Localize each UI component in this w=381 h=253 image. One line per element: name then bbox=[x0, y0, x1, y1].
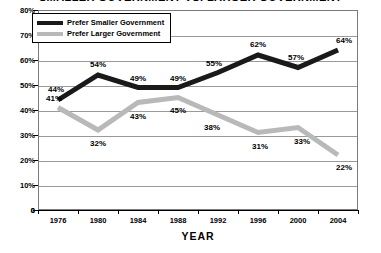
data-point-label: 49% bbox=[130, 73, 146, 82]
chart-title: SMALLER GOVERNMENT VS. LARGER GOVERNMENT bbox=[0, 0, 381, 3]
data-point-label: 22% bbox=[336, 163, 352, 172]
x-axis-tick-label: 1988 bbox=[156, 216, 200, 225]
y-axis-tick-label: 70% bbox=[1, 31, 35, 40]
y-axis-tick-label: 10% bbox=[1, 181, 35, 190]
x-axis-tick-label: 1980 bbox=[76, 216, 120, 225]
y-axis-zero-label: 0 bbox=[1, 206, 35, 215]
legend-item-smaller-government: Prefer Smaller Government bbox=[37, 17, 164, 28]
gridline bbox=[39, 61, 357, 62]
data-point-label: 57% bbox=[288, 52, 304, 61]
legend-swatch-larger-government bbox=[37, 32, 63, 36]
y-axis-tick-label: 50% bbox=[1, 81, 35, 90]
y-axis-tick-label: 20% bbox=[1, 156, 35, 165]
gridline bbox=[39, 186, 357, 187]
x-axis-tick-label: 2000 bbox=[276, 216, 320, 225]
y-axis-tick-label: 80% bbox=[1, 6, 35, 15]
gridline bbox=[39, 86, 357, 87]
gridline bbox=[39, 111, 357, 112]
gridline bbox=[39, 161, 357, 162]
data-point-label: 64% bbox=[336, 36, 352, 45]
data-point-label: 41% bbox=[46, 93, 62, 102]
legend-swatch-smaller-government bbox=[37, 21, 63, 25]
y-axis-tick bbox=[33, 85, 38, 86]
data-point-label: 55% bbox=[206, 58, 222, 67]
x-axis-line bbox=[38, 210, 358, 211]
y-axis-tick bbox=[33, 135, 38, 136]
x-axis-tick-label: 1996 bbox=[236, 216, 280, 225]
data-point-label: 33% bbox=[294, 136, 310, 145]
y-axis-tick bbox=[33, 160, 38, 161]
y-axis-tick-label: 30% bbox=[1, 131, 35, 140]
legend-item-larger-government: Prefer Larger Government bbox=[37, 28, 164, 39]
data-point-label: 31% bbox=[252, 141, 268, 150]
x-axis-tick-label: 1976 bbox=[36, 216, 80, 225]
x-axis-title: YEAR bbox=[38, 230, 358, 242]
data-point-label: 62% bbox=[250, 40, 266, 49]
x-axis-tick-label: 1992 bbox=[196, 216, 240, 225]
y-axis-tick bbox=[33, 10, 38, 11]
data-point-label: 32% bbox=[90, 139, 106, 148]
data-point-label: 43% bbox=[130, 111, 146, 120]
y-axis-tick bbox=[33, 60, 38, 61]
data-point-label: 49% bbox=[170, 73, 186, 82]
data-point-label: 54% bbox=[90, 60, 106, 69]
x-axis-tick bbox=[358, 210, 359, 214]
chart-page: SMALLER GOVERNMENT VS. LARGER GOVERNMENT… bbox=[0, 0, 381, 253]
y-axis-tick bbox=[33, 185, 38, 186]
data-point-label: 45% bbox=[170, 105, 186, 114]
legend-label-smaller-government: Prefer Smaller Government bbox=[67, 18, 164, 27]
y-axis-tick-label: 40% bbox=[1, 106, 35, 115]
legend-label-larger-government: Prefer Larger Government bbox=[67, 29, 160, 38]
chart-legend: Prefer Smaller Government Prefer Larger … bbox=[32, 13, 171, 43]
y-axis-tick bbox=[33, 110, 38, 111]
x-axis-tick-label: 1984 bbox=[116, 216, 160, 225]
y-axis-tick-label: 60% bbox=[1, 56, 35, 65]
x-axis-tick-label: 2004 bbox=[316, 216, 360, 225]
data-point-label: 38% bbox=[204, 123, 220, 132]
